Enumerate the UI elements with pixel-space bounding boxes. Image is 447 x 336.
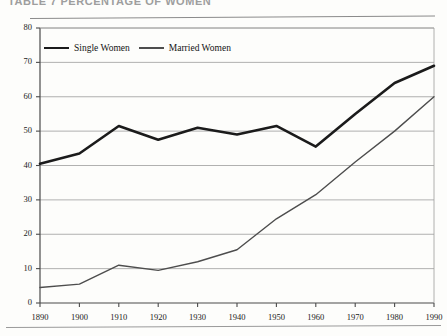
y-axis-tick-label: 0 <box>10 297 32 307</box>
y-axis-tick-label: 30 <box>10 194 32 204</box>
x-axis-tick-label: 1960 <box>298 312 334 322</box>
x-axis-tick-label: 1950 <box>258 312 294 322</box>
y-axis-tick-label: 20 <box>10 228 32 238</box>
x-axis-tick-label: 1970 <box>337 312 373 322</box>
x-axis-tick-label: 1910 <box>101 312 137 322</box>
x-axis-tick-label: 1920 <box>140 312 176 322</box>
x-axis-tick-label: 1980 <box>377 312 413 322</box>
x-axis-tick-label: 1900 <box>61 312 97 322</box>
y-axis-tick-label: 60 <box>10 91 32 101</box>
y-axis-tick-label: 80 <box>10 22 32 32</box>
legend-item-married-women: Married Women <box>139 43 231 53</box>
chart-legend: Single Women Married Women <box>44 43 231 53</box>
y-axis-tick-label: 10 <box>10 263 32 273</box>
y-axis-tick-label: 70 <box>10 56 32 66</box>
series-line-single-women <box>40 66 434 164</box>
line-chart: 01020304050607080 1890190019101920193019… <box>0 0 447 336</box>
x-axis-tick-label: 1930 <box>180 312 216 322</box>
y-axis-tick-label: 50 <box>10 125 32 135</box>
legend-label-single: Single Women <box>74 43 130 53</box>
x-axis-tick-label: 1990 <box>416 312 447 322</box>
legend-item-single-women: Single Women <box>44 43 130 53</box>
x-axis-tick-label: 1940 <box>219 312 255 322</box>
gridlines <box>40 28 434 269</box>
data-series-layer <box>40 66 434 288</box>
legend-label-married: Married Women <box>169 43 231 53</box>
series-line-married-women <box>40 97 434 288</box>
legend-line-icon-married <box>139 47 164 49</box>
y-axis-tick-label: 40 <box>10 160 32 170</box>
x-axis-tick-label: 1890 <box>22 312 58 322</box>
legend-line-icon-single <box>44 47 69 50</box>
